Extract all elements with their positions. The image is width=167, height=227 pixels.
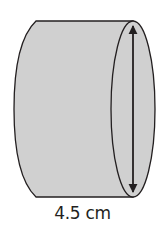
diameter-label: 4.5 cm <box>0 203 167 223</box>
cylinder-diagram <box>0 0 167 227</box>
